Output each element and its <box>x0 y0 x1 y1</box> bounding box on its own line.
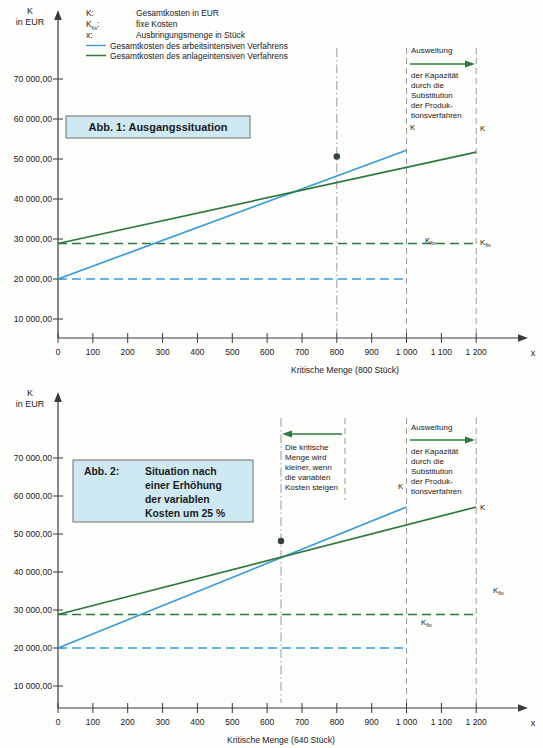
chart-1-series-total-anlageintensiv <box>58 152 476 243</box>
chart-2-xtick-500: 500 <box>225 717 239 727</box>
chart-2-xlabel: x <box>531 718 536 728</box>
chart-1-xtick-100: 100 <box>86 347 100 357</box>
chart-1-y-axis: 10 000,00 20 000,00 30 000,00 40 000,00 … <box>14 6 63 338</box>
arrow-right-icon <box>465 60 475 67</box>
legend-text-arbeitsintensiv: Gesamtkosten des arbeitsintensiven Verfa… <box>110 41 288 51</box>
chart-1-annot-line-2: Substitution <box>411 91 453 100</box>
chart-1-xtick-0: 0 <box>56 347 61 357</box>
chart-2-xtick-400: 400 <box>190 717 204 727</box>
chart-2-ytick-10000: 10 000,00 <box>14 681 52 691</box>
chart-1-annot-line-3: der Produk- <box>411 101 453 110</box>
arrow-left-icon <box>282 430 292 437</box>
chart-2-ytick-50000: 50 000,00 <box>14 529 52 539</box>
chart-2-annot-right-line-2: Substitution <box>411 467 453 476</box>
chart-1-xtick-400: 400 <box>190 347 204 357</box>
chart-2-annot-right-line-4: tionsverfahren <box>411 487 462 496</box>
chart-2-annot-left-line-3: die variablen <box>285 473 330 482</box>
chart-2-intersection-marker <box>278 538 284 544</box>
chart-1-title: Abb. 1: Ausgangssituation <box>89 121 228 133</box>
chart-1-xtick-700: 700 <box>295 347 309 357</box>
y-axis-arrow-icon <box>54 10 62 20</box>
chart-1-ytick-70000: 70 000,00 <box>14 74 52 84</box>
chart-2-annotation-kritische-menge: Die kritische Menge wird kleiner, wenn d… <box>282 430 342 492</box>
chart-2-xtick-700: 700 <box>295 717 309 727</box>
chart-1-xtick-200: 200 <box>121 347 135 357</box>
chart-1-xtick-1200: 1 200 <box>466 347 488 357</box>
legend-key-Kfix: Kfix: <box>86 19 100 31</box>
chart-2-annot-right-line-3: der Produk- <box>411 477 453 486</box>
charts-svg: K: Gesamtkosten in EUR Kfix: fixe Kosten… <box>0 0 543 748</box>
chart-1-figure-box: Abb. 1: Ausgangssituation <box>66 116 250 138</box>
figure-container: K: Gesamtkosten in EUR Kfix: fixe Kosten… <box>0 0 543 748</box>
y-axis-arrow-icon <box>54 392 62 402</box>
legend-key-K: K: <box>86 8 94 18</box>
chart-2-annot-right-heading: Ausweitung <box>411 423 452 432</box>
chart-1-guidelines <box>337 48 476 333</box>
chart-1-annot-heading: Ausweitung <box>411 46 452 55</box>
legend-key-x: x: <box>86 30 93 40</box>
chart-1-intersection-marker <box>334 153 340 159</box>
chart-2-annot-left-line-4: Kosten steigen <box>285 483 338 492</box>
chart-2-ytick-70000: 70 000,00 <box>14 453 52 463</box>
chart-2-annot-left-line-1: Menge wird <box>285 453 326 462</box>
chart-1-label-Kfix-arbeitsintensiv: Kfix <box>425 236 436 246</box>
chart-1-ylabel: K <box>27 6 33 16</box>
chart-1-ylabel-unit: in EUR <box>16 17 45 27</box>
chart-2-figure-box: Abb. 2: Situation nach einer Erhöhung de… <box>73 460 253 522</box>
legend-text-x: Ausbringungsmenge in Stück <box>136 30 246 40</box>
chart-1-ytick-10000: 10 000,00 <box>14 314 52 324</box>
chart-2-ylabel: K <box>27 388 33 398</box>
chart-2-xtick-1200: 1 200 <box>466 717 488 727</box>
chart-2-annot-right-line-1: durch die <box>411 457 444 466</box>
chart-1-label-K-anlageintensiv: K <box>480 124 486 133</box>
chart-1-ytick-60000: 60 000,00 <box>14 114 52 124</box>
chart-2-xtick-0: 0 <box>56 717 61 727</box>
legend-text-anlageintensiv: Gesamtkosten des anlageintensiven Verfah… <box>110 51 288 61</box>
chart-1-annot-line-0: der Kapazität <box>411 71 459 80</box>
chart-2-xtick-800: 800 <box>330 717 344 727</box>
chart-2-y-axis: 10 000,00 20 000,00 30 000,00 40 000,00 … <box>14 388 63 708</box>
chart-2-xtick-300: 300 <box>156 717 170 727</box>
chart-2-xtick-1100: 1 100 <box>431 717 453 727</box>
chart-1-x-axis: 0 100 200 300 400 500 600 700 800 900 1 … <box>56 333 536 358</box>
chart-1-xtick-900: 900 <box>365 347 379 357</box>
chart-2-xtick-100: 100 <box>86 717 100 727</box>
chart-2-label-Kfix-arbeitsintensiv: Kfix <box>421 618 432 628</box>
chart-2-annot-left-line-2: kleiner, wenn <box>285 463 332 472</box>
chart-2-series-total-arbeitsintensiv <box>58 507 407 648</box>
chart-2: 10 000,00 20 000,00 30 000,00 40 000,00 … <box>14 388 536 745</box>
chart-1-xtick-300: 300 <box>156 347 170 357</box>
chart-1-caption: Kritische Menge (800 Stück) <box>291 365 399 375</box>
chart-1-ytick-30000: 30 000,00 <box>14 234 52 244</box>
chart-1-label-K-arbeitsintensiv: K <box>410 123 416 132</box>
chart-2-series-total-anlageintensiv <box>58 507 476 615</box>
chart-1-xtick-600: 600 <box>260 347 274 357</box>
chart-2-title-line-3: Kosten um 25 % <box>145 508 225 519</box>
chart-2-caption: Kritische Menge (640 Stück) <box>227 735 335 745</box>
chart-1-xtick-1100: 1 100 <box>431 347 453 357</box>
chart-2-title-prefix: Abb. 2: <box>84 466 119 477</box>
chart-1-annotation-ausweitung: Ausweitung der Kapazität durch die Subst… <box>410 46 475 120</box>
chart-1: 10 000,00 20 000,00 30 000,00 40 000,00 … <box>14 6 536 375</box>
chart-2-annot-right-line-0: der Kapazität <box>411 447 459 456</box>
chart-2-annot-left-line-0: Die kritische <box>285 443 329 452</box>
chart-1-ytick-20000: 20 000,00 <box>14 274 52 284</box>
chart-1-annot-line-4: tionsverfahren <box>411 111 462 120</box>
chart-2-ytick-40000: 40 000,00 <box>14 567 52 577</box>
x-axis-arrow-icon <box>518 704 528 712</box>
chart-2-ytick-60000: 60 000,00 <box>14 491 52 501</box>
chart-2-title-line-2: der variablen <box>145 494 210 505</box>
x-axis-arrow-icon <box>518 334 528 342</box>
chart-1-xtick-1000: 1 000 <box>396 347 418 357</box>
legend-text-Kfix: fixe Kosten <box>136 19 178 29</box>
chart-1-xtick-800: 800 <box>330 347 344 357</box>
chart-2-ytick-20000: 20 000,00 <box>14 643 52 653</box>
chart-1-label-Kfix-anlageintensiv: Kfix <box>480 238 491 248</box>
chart-1-ytick-50000: 50 000,00 <box>14 154 52 164</box>
chart-1-xtick-500: 500 <box>225 347 239 357</box>
chart-2-title-line-1: einer Erhöhung <box>145 480 222 491</box>
chart-1-xlabel: x <box>531 348 536 358</box>
chart-2-xtick-200: 200 <box>121 717 135 727</box>
legend: K: Gesamtkosten in EUR Kfix: fixe Kosten… <box>86 8 288 61</box>
arrow-right-icon <box>465 436 475 443</box>
